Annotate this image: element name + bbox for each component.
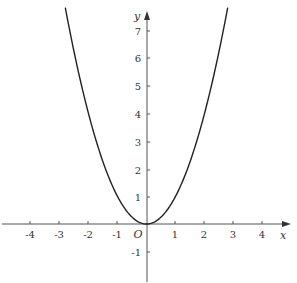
- y-axis-arrow-icon: [144, 11, 150, 20]
- x-axis-label: x: [280, 229, 287, 242]
- y-tick-label: 6: [135, 53, 141, 64]
- y-tick-label: 1: [135, 192, 141, 203]
- y-tick-label: 5: [135, 81, 141, 92]
- y-axis-label: y: [133, 10, 141, 23]
- origin-label: O: [133, 228, 142, 241]
- x-tick-label: 1: [172, 229, 178, 240]
- x-tick-label: 4: [259, 229, 265, 240]
- y-tick-label: 3: [135, 137, 141, 148]
- y-tick-label: 2: [135, 165, 141, 176]
- x-tick-label: 3: [230, 229, 236, 240]
- y-tick-label: 7: [135, 26, 141, 37]
- y-tick-label: 4: [135, 109, 141, 120]
- x-tick-label: -3: [54, 229, 64, 240]
- parabola-chart: -4 -3 -2 -1 1 2 3 4 7 6 5 4 3 2 1 -1 x y…: [0, 0, 297, 283]
- x-tick-label: -2: [83, 229, 93, 240]
- y-tick-label: -1: [131, 247, 141, 258]
- x-axis-arrow-icon: [282, 221, 291, 227]
- x-tick-label: -1: [112, 229, 122, 240]
- x-tick-label: 2: [201, 229, 207, 240]
- x-tick-label: -4: [25, 229, 35, 240]
